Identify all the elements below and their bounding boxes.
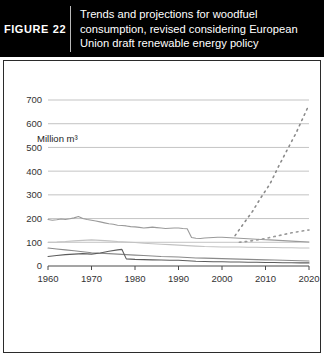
- x-tick-label: 1980: [124, 273, 145, 284]
- y-tick-label: 700: [26, 94, 42, 105]
- y-tick-label: 100: [26, 237, 42, 248]
- chart-plot-area: Million m³ 01002003004005006007001960197…: [4, 61, 320, 352]
- figure-number-tag: FIGURE 22: [0, 0, 70, 57]
- series-line: [48, 248, 309, 261]
- figure-header: FIGURE 22 Trends and projections for woo…: [0, 0, 324, 57]
- x-tick-label: 1960: [37, 273, 58, 284]
- y-tick-label: 400: [26, 166, 42, 177]
- figure-title: Trends and projections for woodfuel cons…: [80, 7, 318, 51]
- woodfuel-consumption-line-chart: 0100200300400500600700196019701980199020…: [4, 61, 320, 352]
- x-tick-label: 2000: [211, 273, 232, 284]
- y-tick-label: 0: [37, 260, 42, 271]
- y-tick-label: 300: [26, 189, 42, 200]
- x-tick-label: 2010: [255, 273, 276, 284]
- header-divider: [70, 6, 71, 52]
- y-tick-label: 600: [26, 118, 42, 129]
- series-line: [48, 240, 309, 248]
- x-tick-label: 1990: [168, 273, 189, 284]
- figure-card: FIGURE 22 Trends and projections for woo…: [0, 0, 324, 357]
- figure-title-line-1: Trends and projections for woodfuel: [80, 7, 318, 22]
- figure-title-line-2: consumption, revised considering Europea…: [80, 22, 318, 37]
- figure-title-line-3: Union draft renewable energy policy: [80, 36, 318, 51]
- figure-body: Million m³ 01002003004005006007001960197…: [3, 60, 321, 353]
- x-tick-label: 1970: [81, 273, 102, 284]
- x-tick-label: 2020: [298, 273, 319, 284]
- series-line: [48, 249, 309, 263]
- y-tick-label: 500: [26, 142, 42, 153]
- y-tick-label: 200: [26, 213, 42, 224]
- series-line: [235, 105, 309, 236]
